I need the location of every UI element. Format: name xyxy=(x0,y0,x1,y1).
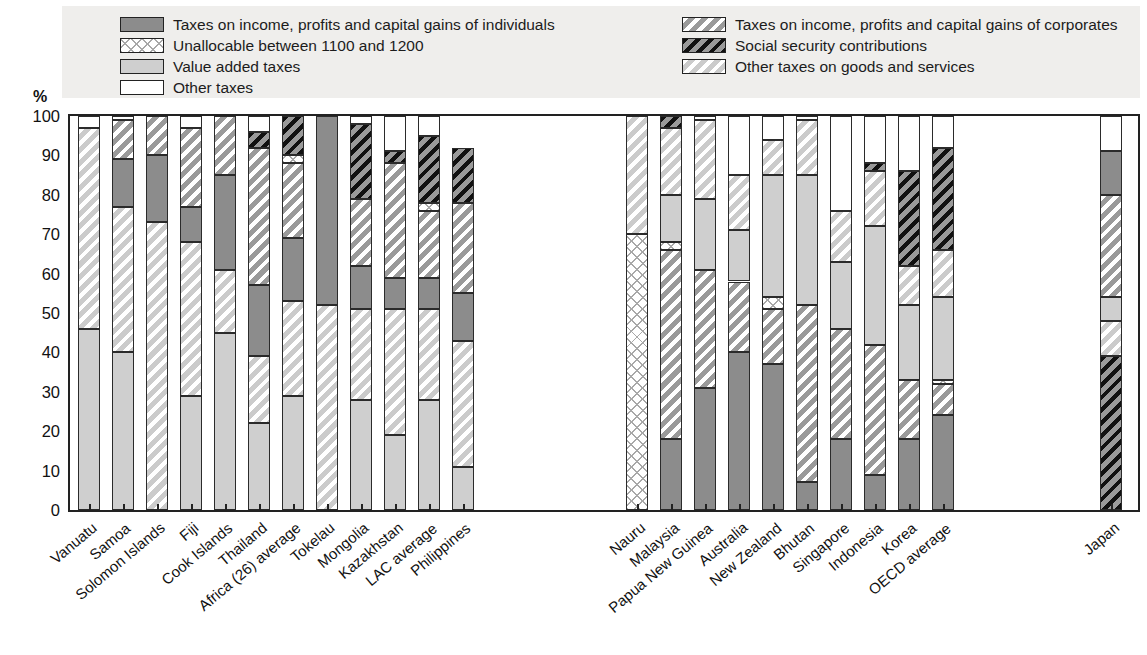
x-axis-label-japan: Japan xyxy=(1080,519,1122,558)
x-axis-labels: VanuatuSamoaSolomon IslandsFijiCook Isla… xyxy=(0,0,1147,655)
chart-root: Taxes on income, profits and capital gai… xyxy=(0,0,1147,655)
x-axis-label-vanuatu: Vanuatu xyxy=(47,519,100,567)
